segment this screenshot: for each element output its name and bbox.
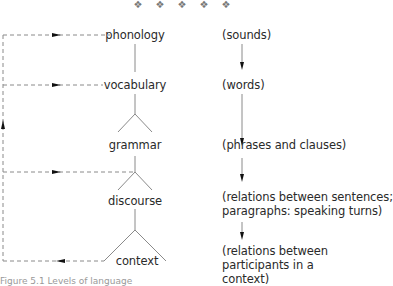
- dashed-arrowheads: [1, 33, 65, 263]
- desc-participants: (relations between participants in a con…: [222, 244, 328, 286]
- desc-words: (words): [222, 78, 265, 92]
- level-vocabulary: vocabulary: [104, 78, 167, 92]
- desc-phrases: (phrases and clauses): [222, 138, 346, 152]
- arrow-down-icon: [240, 232, 244, 240]
- arrow-right-icon: [52, 33, 61, 37]
- level-grammar: grammar: [109, 138, 162, 152]
- tree-lines: [104, 44, 166, 261]
- arrow-down-icon: [240, 174, 244, 182]
- desc-sounds: (sounds): [222, 28, 271, 42]
- level-phonology: phonology: [105, 28, 164, 42]
- figure-caption: Figure 5.1 Levels of language: [0, 276, 132, 286]
- arrow-up-icon: [1, 120, 5, 129]
- arrow-right-icon: [52, 170, 61, 174]
- arrow-right-icon: [52, 83, 61, 87]
- desc-sentences: (relations between sentences; paragraphs…: [222, 190, 393, 218]
- arrow-down-icon: [240, 62, 244, 70]
- level-context: context: [116, 254, 159, 268]
- level-discourse: discourse: [108, 194, 162, 208]
- arrow-left-icon: [56, 259, 65, 263]
